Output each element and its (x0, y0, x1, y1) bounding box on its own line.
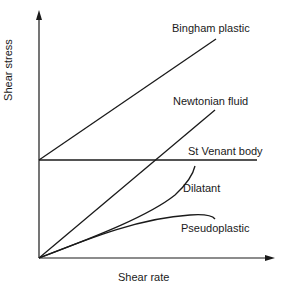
pseudoplastic-label: Pseudoplastic (181, 223, 250, 234)
dilatant-curve (39, 166, 195, 258)
x-axis-label: Shear rate (118, 272, 169, 283)
newtonian-fluid-label: Newtonian fluid (173, 96, 248, 107)
st-venant-label: St Venant body (188, 146, 263, 157)
y-axis-label: Shear stress (2, 30, 14, 110)
dilatant-label: Dilatant (183, 183, 220, 194)
x-axis-arrow-icon (265, 255, 275, 261)
y-axis-arrow-icon (36, 10, 42, 20)
bingham-plastic-label: Bingham plastic (172, 23, 250, 34)
